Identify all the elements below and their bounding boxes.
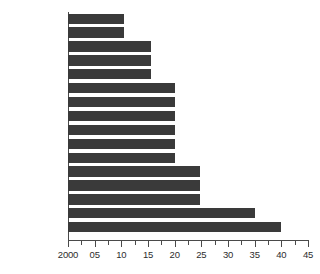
x-tick-minor bbox=[188, 241, 189, 245]
bar bbox=[68, 194, 200, 204]
bar bbox=[68, 208, 255, 218]
x-tick-minor bbox=[268, 241, 269, 245]
bar bbox=[68, 125, 175, 135]
bar-row: Denmark bbox=[68, 82, 308, 96]
bar-row: United Kingdom bbox=[68, 221, 308, 235]
x-tick-minor bbox=[108, 241, 109, 245]
bar-row: Portugal bbox=[68, 137, 308, 151]
bar bbox=[68, 41, 151, 51]
bar-row: France bbox=[68, 68, 308, 82]
x-tick-major bbox=[255, 241, 256, 247]
x-tick-major bbox=[148, 241, 149, 247]
bar bbox=[68, 153, 175, 163]
bar-row: Germany bbox=[68, 54, 308, 68]
x-tick-major bbox=[175, 241, 176, 247]
bar-row: Greece bbox=[68, 95, 308, 109]
x-tick-major bbox=[68, 241, 69, 247]
x-tick-major bbox=[121, 241, 122, 247]
x-tick-label: 2000 bbox=[58, 249, 78, 260]
bar bbox=[68, 222, 281, 232]
x-tick-label: 05 bbox=[90, 249, 100, 260]
x-tick-minor bbox=[135, 241, 136, 245]
bar-row: Ireland bbox=[68, 207, 308, 221]
x-tick-major bbox=[308, 241, 309, 247]
x-tick-label: 35 bbox=[250, 249, 260, 260]
bar bbox=[68, 139, 175, 149]
x-tick-label: 40 bbox=[276, 249, 286, 260]
x-tick-label: 30 bbox=[223, 249, 233, 260]
bar bbox=[68, 14, 124, 24]
x-tick-label: 15 bbox=[143, 249, 153, 260]
x-tick-minor bbox=[215, 241, 216, 245]
bar-row: Italy bbox=[68, 109, 308, 123]
bar bbox=[68, 55, 151, 65]
bar bbox=[68, 83, 175, 93]
bar bbox=[68, 111, 175, 121]
x-tick-major bbox=[228, 241, 229, 247]
x-tick-major bbox=[281, 241, 282, 247]
x-tick-label: 20 bbox=[170, 249, 180, 260]
x-tick-label: 25 bbox=[196, 249, 206, 260]
bar bbox=[68, 69, 151, 79]
bar bbox=[68, 180, 200, 190]
bar-row: Netherlands bbox=[68, 179, 308, 193]
x-tick-minor bbox=[295, 241, 296, 245]
x-tick-label: 10 bbox=[116, 249, 126, 260]
x-tick-minor bbox=[161, 241, 162, 245]
x-tick-major bbox=[95, 241, 96, 247]
bar-row: United States bbox=[68, 40, 308, 54]
x-tick-label: 45 bbox=[303, 249, 313, 260]
bar-row: Belgium bbox=[68, 165, 308, 179]
bar bbox=[68, 97, 175, 107]
bar-chart: FinlandSwitzerlandUnited StatesGermanyFr… bbox=[0, 0, 320, 274]
bar-row: Sweden bbox=[68, 151, 308, 165]
x-tick-minor bbox=[81, 241, 82, 245]
bar bbox=[68, 166, 200, 176]
x-tick-major bbox=[201, 241, 202, 247]
bar bbox=[68, 27, 124, 37]
bar-row: Finland bbox=[68, 12, 308, 26]
bar-row: Spain bbox=[68, 193, 308, 207]
x-tick-minor bbox=[241, 241, 242, 245]
bar-row: Switzerland bbox=[68, 26, 308, 40]
bar-row: Norway bbox=[68, 123, 308, 137]
